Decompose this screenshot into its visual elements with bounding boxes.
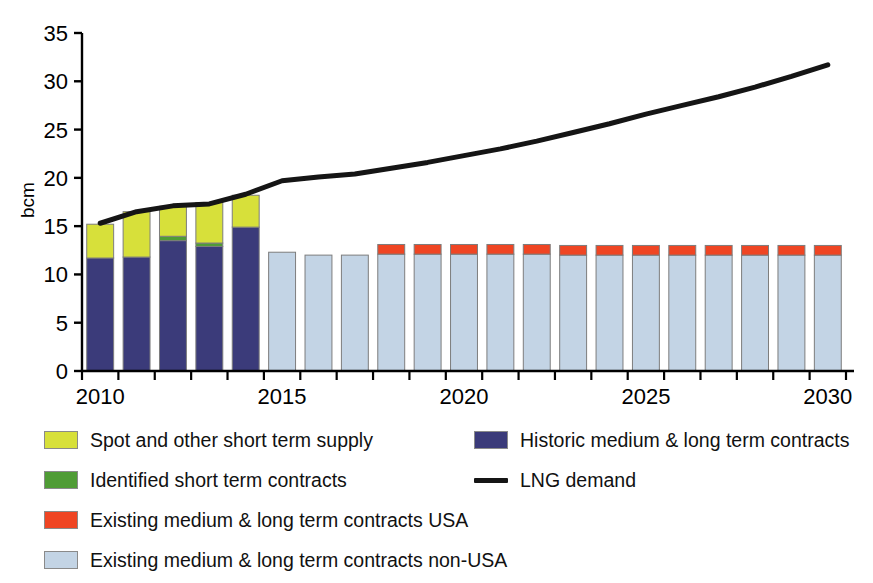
bar-stack (523, 244, 550, 371)
bar-segment-existing_ml_nonusa (487, 254, 514, 371)
x-tick-label: 2030 (803, 384, 852, 409)
bar-segment-existing_ml_usa (778, 245, 805, 255)
legend-item-label: Identified short term contracts (90, 470, 347, 490)
bar-segment-historic_ml (87, 258, 114, 371)
bar-stack (87, 224, 114, 371)
bar-segment-existing_ml_usa (414, 244, 441, 254)
x-tick-label: 2010 (76, 384, 125, 409)
bar-stack (487, 244, 514, 371)
bar-segment-existing_ml_nonusa (305, 255, 332, 371)
bar-stack (232, 195, 259, 371)
bar-stack (560, 245, 587, 371)
bar-segment-existing_ml_nonusa (814, 255, 841, 371)
bar-stack (814, 245, 841, 371)
bar-segment-existing_ml_usa (451, 244, 478, 254)
bar-segment-historic_ml (196, 246, 223, 371)
legend-item-label: Historic medium & long term contracts (520, 430, 849, 450)
bar-segment-existing_ml_usa (596, 245, 623, 255)
bar-segment-existing_ml_usa (742, 245, 769, 255)
bar-segment-historic_ml (159, 241, 186, 371)
bar-segment-existing_ml_usa (523, 244, 550, 254)
bar-segment-existing_ml_usa (378, 244, 405, 254)
bar-segment-existing_ml_nonusa (560, 255, 587, 371)
legend-item-identified-short-term-contracts: Identified short term contracts (44, 470, 347, 490)
bar-segment-identified_short (159, 236, 186, 240)
bar-stack (123, 212, 150, 371)
bar-segment-existing_ml_nonusa (705, 255, 732, 371)
bar-segment-existing_ml_nonusa (378, 254, 405, 371)
legend-line-icon (474, 471, 508, 489)
legend-item-existing-medium-long-term-contracts-non-usa: Existing medium & long term contracts no… (44, 550, 507, 570)
y-tick-label: 25 (44, 118, 68, 143)
bar-stack (378, 244, 405, 371)
bar-stack (705, 245, 732, 371)
bar-stack (305, 255, 332, 371)
bar-segment-existing_ml_nonusa (742, 255, 769, 371)
x-tick-label: 2025 (621, 384, 670, 409)
legend-swatch-icon (44, 431, 78, 449)
legend-item-label: Spot and other short term supply (90, 430, 373, 450)
legend-swatch-icon (44, 511, 78, 529)
legend-swatch-icon (44, 551, 78, 569)
bar-segment-existing_ml_nonusa (341, 255, 368, 371)
line-series-lng-demand (100, 65, 828, 223)
bar-stack (742, 245, 769, 371)
legend-item-spot-and-other-short-term-supply: Spot and other short term supply (44, 430, 373, 450)
bar-segment-existing_ml_nonusa (523, 254, 550, 371)
x-tick-label: 2020 (440, 384, 489, 409)
lng-supply-demand-chart-figure: 0510152025303520102015202020252030bcm Sp… (0, 0, 873, 583)
legend-swatch-icon (474, 431, 508, 449)
bar-stack (159, 206, 186, 371)
bar-segment-existing_ml_nonusa (632, 255, 659, 371)
bar-segment-existing_ml_usa (814, 245, 841, 255)
bar-stack (414, 244, 441, 371)
legend-item-historic-medium-long-term-contracts: Historic medium & long term contracts (474, 430, 849, 450)
bar-segment-historic_ml (123, 257, 150, 371)
bar-segment-existing_ml_nonusa (414, 254, 441, 371)
bar-stack (596, 245, 623, 371)
x-tick-label: 2015 (258, 384, 307, 409)
chart-legend: Spot and other short term supply Identif… (0, 418, 873, 583)
legend-item-label: Existing medium & long term contracts US… (90, 510, 468, 530)
y-tick-label: 30 (44, 69, 68, 94)
bar-segment-existing_ml_usa (632, 245, 659, 255)
y-tick-label: 15 (44, 214, 68, 239)
bar-segment-spot_short (123, 212, 150, 257)
bar-segment-existing_ml_usa (560, 245, 587, 255)
bar-segment-existing_ml_nonusa (596, 255, 623, 371)
bar-segment-existing_ml_nonusa (669, 255, 696, 371)
bar-segment-spot_short (159, 206, 186, 236)
bar-segment-existing_ml_usa (705, 245, 732, 255)
bar-segment-historic_ml (232, 227, 259, 371)
y-tick-label: 10 (44, 262, 68, 287)
bar-segment-identified_short (196, 243, 223, 246)
y-tick-label: 20 (44, 166, 68, 191)
bar-segment-existing_ml_usa (487, 244, 514, 254)
bar-stack (341, 255, 368, 371)
y-tick-label: 5 (56, 311, 68, 336)
bar-stack (269, 252, 296, 371)
bar-segment-existing_ml_nonusa (451, 254, 478, 371)
y-axis-title: bcm (17, 182, 38, 218)
bar-segment-existing_ml_nonusa (269, 252, 296, 371)
bar-stack (669, 245, 696, 371)
bars-group (87, 195, 842, 371)
legend-item-label: LNG demand (520, 470, 636, 490)
bar-stack (632, 245, 659, 371)
bar-stack (778, 245, 805, 371)
bar-segment-existing_ml_usa (669, 245, 696, 255)
bar-segment-spot_short (87, 224, 114, 258)
legend-item-label: Existing medium & long term contracts no… (90, 550, 507, 570)
bar-stack (451, 244, 478, 371)
bar-segment-spot_short (232, 195, 259, 227)
bar-stack (196, 202, 223, 371)
bar-segment-spot_short (196, 202, 223, 243)
bar-segment-existing_ml_nonusa (778, 255, 805, 371)
y-tick-label: 0 (56, 359, 68, 384)
legend-swatch-icon (44, 471, 78, 489)
y-tick-label: 35 (44, 21, 68, 46)
legend-item-existing-medium-long-term-contracts-usa: Existing medium & long term contracts US… (44, 510, 468, 530)
legend-item-lng-demand: LNG demand (474, 470, 636, 490)
